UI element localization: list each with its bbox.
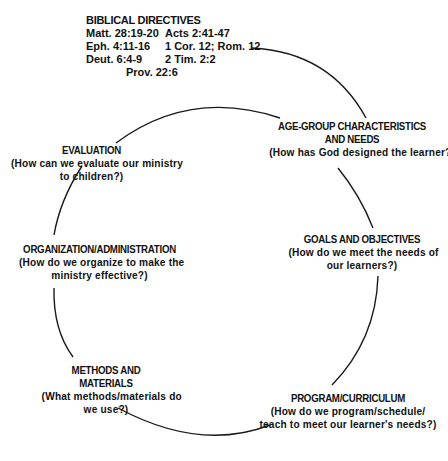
node-question: teach to meet our learner's needs?)	[256, 418, 440, 431]
scripture-ref: Acts 2:41-47	[165, 27, 230, 40]
scripture-ref: Eph. 4:11-16	[86, 40, 165, 53]
scripture-row: Eph. 4:11-16 1 Cor. 12; Rom. 12	[86, 40, 260, 53]
scripture-ref-prov: Prov. 22:6	[86, 66, 260, 79]
scripture-ref: Deut. 6:4-9	[86, 53, 165, 66]
arc-age-to-goals	[338, 168, 373, 228]
node-question: we use?)	[42, 403, 171, 416]
node-program: PROGRAM/CURRICULUM (How do we program/sc…	[248, 392, 448, 431]
node-question: (How do we meet the needs of	[288, 246, 435, 259]
node-question: to children?)	[11, 170, 172, 183]
node-question: (How can we evaluate our ministry	[11, 157, 172, 170]
node-title: AND NEEDS	[273, 133, 431, 146]
node-title: EVALUATION	[15, 144, 169, 157]
node-question: (How has God designed the learner?)	[269, 146, 435, 159]
node-question: ministry effective?)	[19, 269, 180, 282]
node-goals: GOALS AND OBJECTIVES (How do we meet the…	[282, 233, 442, 272]
arc-methods-to-org	[54, 288, 73, 357]
node-title: GOALS AND OBJECTIVES	[292, 233, 433, 246]
biblical-directives-title: BIBLICAL DIRECTIVES	[86, 14, 260, 27]
node-title: PROGRAM/CURRICULUM	[260, 392, 436, 405]
node-question: (What methods/materials do	[42, 390, 171, 403]
node-methods: METHODS AND MATERIALS (What methods/mate…	[36, 364, 176, 416]
scripture-ref: Matt. 28:19-20	[86, 27, 165, 40]
node-title: METHODS AND MATERIALS	[44, 364, 167, 390]
node-evaluation: EVALUATION (How can we evaluate our mini…	[4, 144, 179, 183]
arc-goals-to-program	[332, 276, 378, 385]
node-question: our learners?)	[288, 259, 435, 272]
scripture-row: Deut. 6:4-9 2 Tim. 2:2	[86, 53, 260, 66]
node-title: ORGANIZATION/ADMINISTRATION	[23, 243, 177, 256]
scripture-ref: 2 Tim. 2:2	[165, 53, 216, 66]
scripture-row: Matt. 28:19-20 Acts 2:41-47	[86, 27, 260, 40]
arc-biblical-to-age	[252, 48, 366, 118]
node-age-group: AGE-GROUP CHARACTERISTICS AND NEEDS (How…	[262, 120, 442, 159]
node-organization: ORGANIZATION/ADMINISTRATION (How do we o…	[12, 243, 187, 282]
node-question: (How do we organize to make the	[19, 256, 180, 269]
biblical-directives: BIBLICAL DIRECTIVES Matt. 28:19-20 Acts …	[86, 14, 260, 79]
node-question: (How do we program/schedule/	[256, 405, 440, 418]
arc-evaluation-to-age	[116, 107, 280, 143]
node-title: AGE-GROUP CHARACTERISTICS	[273, 120, 431, 133]
scripture-ref: 1 Cor. 12; Rom. 12	[165, 40, 260, 53]
